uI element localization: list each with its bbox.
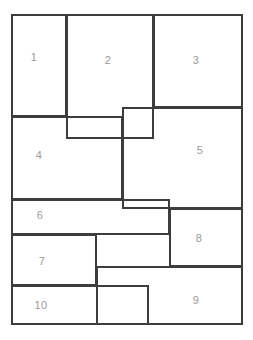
region-rect-5[interactable] [122, 107, 243, 209]
region-rect-7[interactable] [11, 234, 97, 286]
region-label-8: 8 [196, 232, 203, 244]
rectangle-packing-diagram: 1 2 3 4 5 6 7 8 9 10 [0, 0, 253, 340]
region-label-5: 5 [197, 144, 204, 156]
region-rect-10[interactable] [11, 285, 149, 325]
region-label-7: 7 [39, 255, 46, 267]
region-label-4: 4 [36, 149, 43, 161]
region-label-9: 9 [193, 294, 200, 306]
region-label-1: 1 [31, 51, 38, 63]
region-rect-8[interactable] [169, 208, 243, 267]
region-label-3: 3 [193, 54, 200, 66]
region-label-10: 10 [34, 299, 47, 311]
region-rect-1[interactable] [11, 14, 67, 117]
region-rect-4[interactable] [11, 116, 123, 200]
region-label-6: 6 [37, 209, 44, 221]
region-label-2: 2 [105, 54, 112, 66]
region-rect-6[interactable] [11, 199, 170, 235]
